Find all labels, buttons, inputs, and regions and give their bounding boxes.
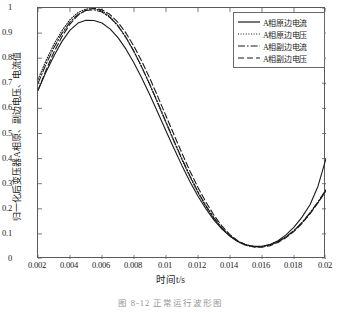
legend-line-sample — [237, 53, 261, 63]
legend-line-sample — [237, 41, 261, 51]
x-tick-label: 0.014 — [220, 260, 238, 270]
figure-container: 00.10.20.30.40.50.60.70.80.91 0.0020.004… — [0, 0, 341, 312]
legend-line-sample — [237, 17, 261, 27]
legend-label: A相副边电流 — [263, 41, 307, 52]
legend-label: A相原边电压 — [263, 29, 307, 40]
legend-label: A相原边电流 — [263, 17, 307, 28]
x-tick-label: 0.006 — [92, 260, 110, 270]
x-tick-label: 0.016 — [252, 260, 270, 270]
legend-item[interactable]: A相副边电流 — [237, 40, 322, 52]
x-tick-label: 0.02 — [318, 260, 332, 270]
chart-legend: A相原边电流A相原边电压A相副边电流A相副边电压 — [233, 12, 325, 68]
x-tick-label: 0.008 — [124, 260, 142, 270]
x-axis-title: 时间t/s — [0, 272, 341, 286]
x-tick-label: 0.01 — [158, 260, 172, 270]
legend-label: A相副边电压 — [263, 53, 307, 64]
y-axis-title: 归一化后变压器A相原、副边电压、电流值 — [10, 37, 23, 237]
x-tick-label: 0.002 — [28, 260, 46, 270]
legend-item[interactable]: A相原边电压 — [237, 28, 322, 40]
figure-caption: 图 8-12 正常运行波形图 — [0, 296, 341, 308]
y-tick-label: 1 — [0, 2, 12, 12]
legend-item[interactable]: A相原边电流 — [237, 16, 322, 28]
x-tick-label: 0.012 — [188, 260, 206, 270]
legend-item[interactable]: A相副边电压 — [237, 52, 322, 64]
x-tick-label: 0.004 — [60, 260, 78, 270]
y-tick-label: 0 — [0, 253, 12, 263]
x-tick-label: 0.018 — [284, 260, 302, 270]
legend-line-sample — [237, 29, 261, 39]
